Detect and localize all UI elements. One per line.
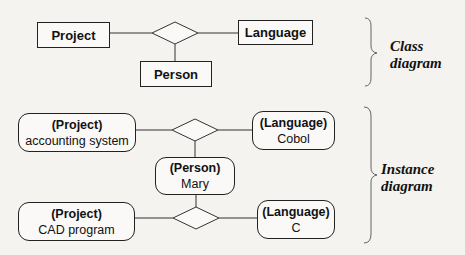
class-person-label: Person (154, 67, 198, 82)
instance-language-c-box: (Language) C (257, 200, 335, 239)
instance-language-cobol-box: (Language) Cobol (252, 111, 335, 150)
instance-person-mary-box: (Person) Mary (155, 157, 235, 195)
instance-class-label: (Project) (51, 206, 102, 222)
diagram-canvas: Project Language Person (Project) accoun… (0, 0, 465, 255)
instance-object-name: Cobol (277, 131, 310, 147)
class-project-box: Project (37, 22, 110, 48)
instance-diagram-label: Instance diagram (381, 161, 434, 195)
class-person-box: Person (140, 61, 212, 87)
instance-object-name: CAD program (38, 222, 114, 238)
instance-object-name: Mary (181, 176, 209, 192)
inst1-link-diamond (172, 119, 218, 141)
instance-class-label: (Language) (260, 115, 327, 131)
class-language-label: Language (245, 25, 306, 40)
class-diagram-label-line2: diagram (390, 55, 442, 72)
inst2-link-diamond (173, 207, 219, 229)
instance-brace (364, 107, 377, 243)
class-diagram-label: Class diagram (390, 38, 442, 72)
class-association-diamond (152, 22, 198, 44)
instance-class-label: (Person) (170, 160, 221, 176)
class-project-label: Project (51, 28, 95, 43)
instance-project-accounting-box: (Project) accounting system (18, 113, 136, 152)
instance-project-cad-box: (Project) CAD program (18, 202, 135, 241)
instance-object-name: accounting system (25, 133, 129, 149)
class-diagram-label-line1: Class (390, 38, 442, 55)
instance-diagram-label-line1: Instance (381, 161, 434, 178)
instance-diagram-label-line2: diagram (381, 178, 434, 195)
instance-class-label: (Project) (52, 117, 103, 133)
instance-object-name: C (291, 220, 300, 236)
class-language-box: Language (238, 20, 313, 45)
instance-class-label: (Language) (262, 204, 329, 220)
class-brace (365, 18, 377, 86)
